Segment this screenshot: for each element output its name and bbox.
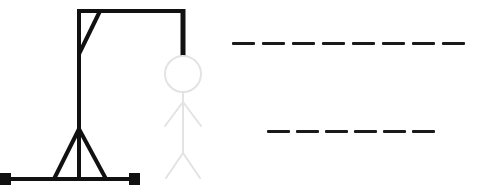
gallows <box>5 9 185 179</box>
letter-blank <box>267 130 290 133</box>
letter-blank <box>292 42 315 45</box>
letter-blank <box>412 130 435 133</box>
figure-left-arm <box>165 102 183 126</box>
letter-blank <box>412 42 435 45</box>
letter-blank <box>442 42 465 45</box>
letter-blank <box>232 42 255 45</box>
letter-blank <box>354 130 377 133</box>
letter-blank <box>322 42 345 45</box>
word-row-2 <box>267 130 435 133</box>
figure-right-leg <box>183 153 200 178</box>
gallows-right-strut <box>79 129 106 179</box>
gallows-left-foot <box>0 173 11 185</box>
gallows-left-strut <box>54 129 79 179</box>
letter-blank <box>296 130 319 133</box>
gallows-brace <box>79 11 100 54</box>
gallows-right-foot <box>129 173 140 185</box>
letter-blank <box>325 130 348 133</box>
hangman-figure <box>165 56 201 178</box>
letter-blank <box>352 42 375 45</box>
hangman-drawing <box>0 0 484 189</box>
letter-blank <box>262 42 285 45</box>
word-row-1 <box>232 42 465 45</box>
figure-left-leg <box>166 153 183 178</box>
letter-blank <box>383 130 406 133</box>
letter-blank <box>382 42 405 45</box>
figure-right-arm <box>183 102 201 126</box>
hangman-game <box>0 0 484 189</box>
figure-head <box>165 56 201 92</box>
